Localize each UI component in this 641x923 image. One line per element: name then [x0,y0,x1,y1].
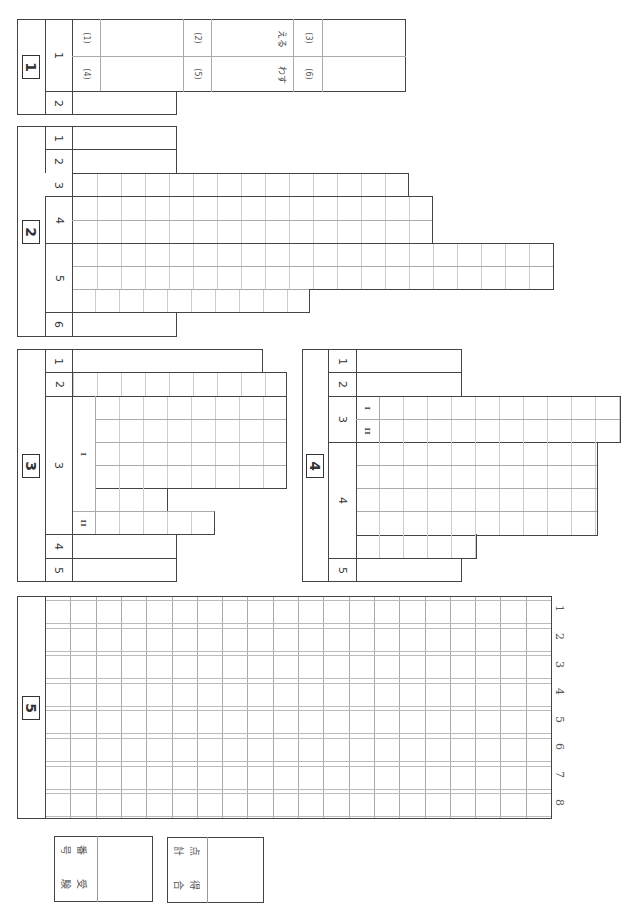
s3-q3-II-grid[interactable] [96,511,215,535]
s4-q3-number: 3 [328,396,356,443]
s2-q1-number: 1 [45,126,72,150]
divider [72,91,73,115]
line-number-6: 6 [556,741,563,752]
line-number-7: 7 [556,769,563,780]
line-number-3: 3 [556,659,563,670]
s3-q3-I-grid-line5[interactable] [96,488,168,512]
divider [72,534,73,559]
s2-q4-number: 4 [46,197,72,243]
divider [72,396,73,535]
s3-q2-answer-grid[interactable] [45,372,287,397]
section-2-badge: 2 [22,220,40,244]
line-number-8: 8 [556,797,563,808]
divider [356,488,597,489]
s2-q3-number: 3 [45,173,72,197]
section-1-badge: 1 [22,55,40,79]
composition-grid[interactable] [46,597,551,818]
s4-q4-answer-grid-line5[interactable] [356,534,477,559]
exam-number-label: 号 番 験 受 [57,842,95,898]
divider [356,465,597,466]
s1-q1-answer-1[interactable] [101,20,183,55]
s3-q4-number: 4 [45,534,72,559]
s3-q1-answer[interactable] [45,349,263,373]
s4-q2-number: 2 [328,372,356,397]
divider [356,349,357,373]
s4-q4-number: 4 [328,442,356,559]
s2-q6-number: 6 [45,312,72,337]
okurigana-eru: える [270,28,292,48]
divider [96,442,286,443]
section-4-badge-wrap: 4 [302,349,328,582]
s2-q5-answer-grid-line3[interactable] [45,289,310,313]
s1-q1-number: 1 [45,19,72,92]
s4-q4-answer-grid[interactable] [356,442,598,536]
s1-q1-answer-4[interactable] [101,57,183,91]
s2-q3-answer-grid[interactable] [45,173,409,197]
divider [356,372,357,397]
divider [356,442,357,559]
section-3-badge-wrap: 3 [17,349,45,582]
s3-q3-part-I: I [72,396,96,511]
s1-q1-sub-6: (6) [293,56,322,92]
s3-q1-number: 1 [45,349,72,373]
line-number-5: 5 [556,714,563,725]
s4-q5-number: 5 [328,558,356,582]
s1-q1-answer-6[interactable] [323,57,405,91]
divider [356,511,597,512]
divider [380,419,620,420]
divider [72,289,309,290]
section-4-badge: 4 [306,454,324,478]
divider [96,419,286,420]
okurigana-wasu: わす [270,64,292,84]
divider [72,372,73,397]
divider [72,220,432,221]
divider [356,558,357,582]
s1-q1-sub-3: (3) [293,19,322,56]
section-1-badge-wrap: 1 [17,19,45,115]
divider [309,289,554,290]
s3-q3-part-II: II [72,511,96,535]
s4-q1-number: 1 [328,349,356,373]
s1-q2-number: 2 [45,91,72,115]
total-score-input[interactable] [208,838,263,902]
section-5-badge-wrap: 5 [17,596,45,819]
s3-q5-number: 5 [45,558,72,582]
divider [72,349,73,373]
divider [72,243,73,313]
s3-q3-number: 3 [45,396,72,535]
s1-q1-sub-1: (1) [72,19,100,56]
s1-q1-sub-4: (4) [72,56,100,92]
line-number-2: 2 [556,631,563,642]
s2-q5-number: 5 [46,244,72,312]
divider [96,465,286,466]
divider [72,312,73,337]
section-2-badge-wrap: 2 [17,126,45,337]
s2-q2-number: 2 [45,149,72,174]
s4-q3-part-I: I [356,396,380,419]
s1-q1-sub-2: (2) [183,19,211,56]
line-number-1: 1 [556,603,563,614]
s4-q3-part-II: II [356,419,380,442]
divider [72,558,73,582]
line-number-4: 4 [556,686,563,697]
s3-q2-number: 2 [46,373,72,396]
section-5-badge: 5 [22,696,40,720]
s1-q1-answer-3[interactable] [323,20,405,55]
divider [72,266,553,267]
exam-number-input[interactable] [98,837,152,901]
total-score-label: 計 点 合 得 [170,843,206,899]
section-3-badge: 3 [22,454,40,478]
s1-q1-sub-5: (5) [183,56,211,92]
